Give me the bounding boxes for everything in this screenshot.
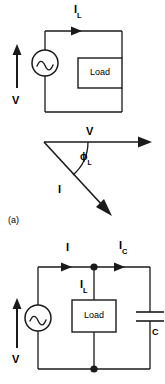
capacitor-current-arrowhead bbox=[114, 263, 125, 272]
figure-canvas bbox=[0, 0, 165, 384]
load-label-top: Load bbox=[78, 67, 122, 77]
bottom-line-current-label: I bbox=[66, 242, 69, 253]
bottom-capacitor-current-label: IC bbox=[119, 240, 127, 254]
bottom-supply-voltage-arrow bbox=[13, 298, 22, 348]
part-label: (a) bbox=[8, 215, 19, 225]
junction-dot-top bbox=[90, 263, 97, 270]
capacitor-label: C bbox=[152, 327, 159, 337]
phasor-current bbox=[44, 142, 112, 216]
bottom-load-current-label: IL bbox=[80, 279, 88, 293]
line-current-arrowhead bbox=[61, 263, 72, 272]
bottom-load-current-subscript: L bbox=[83, 286, 88, 295]
phasor-angle-subscript: L bbox=[88, 159, 92, 166]
top-branch-current-subscript: L bbox=[77, 11, 82, 20]
bottom-capacitor-current-subscript: C bbox=[122, 247, 127, 256]
junction-dot-bottom bbox=[90, 365, 97, 372]
phasor-voltage-label: V bbox=[86, 126, 93, 137]
top-current-arrowhead bbox=[71, 27, 82, 36]
top-supply-voltage-arrow bbox=[13, 44, 22, 88]
top-branch-current-label: IL bbox=[74, 4, 82, 18]
bottom-supply-voltage-label: V bbox=[12, 354, 19, 365]
load-label-bottom: Load bbox=[72, 310, 116, 320]
top-supply-voltage-label: V bbox=[12, 95, 19, 106]
phasor-current-label: I bbox=[58, 184, 61, 195]
phasor-diagram bbox=[44, 137, 152, 217]
ac-source-symbol-top bbox=[32, 50, 58, 76]
ac-source-symbol-bottom bbox=[25, 305, 51, 331]
phasor-angle-label: ϕL bbox=[80, 152, 92, 165]
phasor-voltage bbox=[44, 137, 152, 148]
